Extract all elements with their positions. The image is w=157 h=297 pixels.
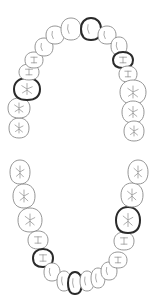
tooth-lower-15[interactable] [121,183,143,207]
tooth-upper-12[interactable] [113,52,133,68]
tooth-upper-3[interactable] [14,78,40,100]
lower-arch [10,160,148,294]
tooth-upper-8[interactable] [61,18,81,40]
tooth-lower-1[interactable] [10,160,30,184]
tooth-lower-3[interactable] [18,208,42,232]
tooth-upper-14[interactable] [120,80,146,104]
tooth-lower-4[interactable] [28,231,48,249]
tooth-upper-15[interactable] [122,101,144,123]
tooth-upper-1[interactable] [9,118,29,138]
tooth-upper-16[interactable] [124,121,144,141]
tooth-lower-16[interactable] [128,160,148,184]
tooth-upper-2[interactable] [8,98,30,118]
upper-arch [8,18,146,141]
tooth-outline[interactable] [61,18,81,40]
dental-chart [0,0,157,297]
tooth-lower-12[interactable] [109,252,127,268]
tooth-lower-13[interactable] [114,232,134,250]
tooth-lower-14[interactable] [116,207,140,233]
tooth-lower-2[interactable] [13,184,35,208]
